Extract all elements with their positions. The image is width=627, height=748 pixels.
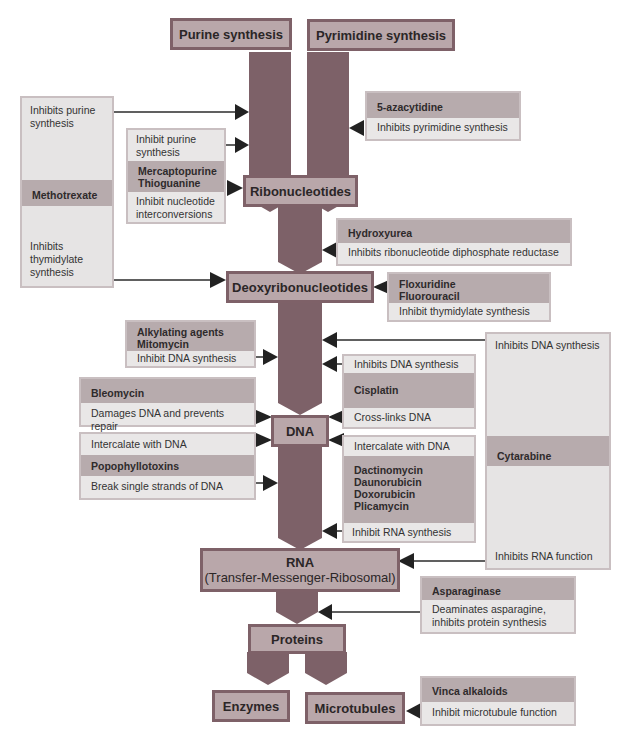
node-deoxyribonucleotides: Deoxyribonucleotides [226, 271, 374, 303]
mercaptopurine-name-1: Mercaptopurine [128, 165, 224, 177]
arrowhead-left [318, 604, 332, 620]
vinca-name: Vinca alkaloids [422, 685, 518, 697]
alkylating-effect: Inhibit DNA synthesis [127, 351, 254, 366]
arrowhead-left [349, 120, 364, 136]
proteins-to-microtubules-arrow [305, 652, 347, 685]
arrowhead-right [210, 272, 226, 288]
panel-methotrexate: Inhibits purine synthesis Methotrexate I… [20, 96, 114, 288]
bleomycin-effect: Damages DNA and prevents repair [81, 403, 254, 425]
dna-to-rna-arrow [278, 445, 322, 550]
cytarabine-effect-rna-function: Inhibits RNA function [487, 466, 609, 568]
arrowhead-left [406, 703, 421, 719]
panel-cytarabine: Inhibits DNA synthesis Cytarabine Inhibi… [485, 332, 611, 570]
bleomycin-name: Bleomycin [81, 387, 154, 399]
panel-asparaginase: Asparaginase Deaminates asparagine, inhi… [420, 576, 576, 634]
node-pyrimidine-synthesis: Pyrimidine synthesis [307, 19, 455, 51]
panel-bleomycin: Bleomycin Damages DNA and prevents repai… [79, 377, 256, 427]
methotrexate-effect-purine: Inhibits purine synthesis [22, 98, 112, 180]
deoxy-to-dna-arrow [278, 300, 322, 415]
node-enzymes: Enzymes [212, 690, 290, 722]
methotrexate-effect-thymidylate: Inhibits thymidylate synthesis [22, 206, 112, 286]
node-dna: DNA [271, 415, 329, 447]
asparaginase-effect: Deaminates asparagine, inhibits protein … [422, 600, 574, 632]
mercaptopurine-effect-purine: Inhibit purine synthesis [128, 130, 224, 161]
asparaginase-name: Asparaginase [422, 585, 511, 597]
node-rna: RNA (Transfer-Messenger-Ribosomal) [200, 548, 400, 592]
alkylating-name-2: Mitomycin [127, 338, 199, 350]
dactinomycin-name-3: Doxorubicin [344, 488, 425, 500]
cisplatin-effect-dna-synthesis: Inhibits DNA synthesis [344, 356, 474, 373]
rna-label: RNA [286, 555, 314, 570]
panel-cisplatin: Inhibits DNA synthesis Cisplatin Cross-l… [342, 354, 476, 429]
arrowhead-right [227, 180, 243, 196]
alkylating-name-1: Alkylating agents [127, 326, 234, 338]
popophyllotoxins-effect-intercalate: Intercalate with DNA [81, 434, 254, 455]
arrowhead-left [322, 332, 337, 348]
arrowhead-right [263, 349, 278, 365]
arrowhead-left [322, 242, 337, 258]
methotrexate-name: Methotrexate [22, 189, 112, 201]
mercaptopurine-name-2: Thioguanine [128, 177, 224, 189]
hydroxyurea-effect: Inhibits ribonucleotide diphosphate redu… [338, 243, 570, 264]
node-purine-synthesis: Purine synthesis [170, 18, 292, 50]
dactinomycin-name-1: Dactinomycin [344, 464, 433, 476]
panel-mercaptopurine: Inhibit purine synthesis Mercaptopurine … [126, 128, 226, 224]
popophyllotoxins-name: Popophyllotoxins [81, 460, 189, 472]
mercaptopurine-effect-interconversions: Inhibit nucleotide interconversions [128, 192, 224, 222]
cytarabine-name: Cytarabine [487, 450, 609, 462]
cisplatin-effect-crosslinks: Cross-links DNA [344, 408, 474, 427]
proteins-to-enzymes-arrow [247, 652, 289, 685]
cytarabine-effect-dna-synthesis: Inhibits DNA synthesis [487, 334, 609, 436]
node-proteins: Proteins [248, 624, 346, 654]
panel-hydroxyurea: Hydroxyurea Inhibits ribonucleotide diph… [336, 218, 572, 266]
floxuridine-name-1: Floxuridine [389, 278, 466, 290]
popophyllotoxins-effect-strands: Break single strands of DNA [81, 476, 254, 498]
arrowhead-left [322, 523, 337, 539]
panel-popophyllotoxins: Intercalate with DNA Popophyllotoxins Br… [79, 432, 256, 500]
azacytidine-effect: Inhibits pyrimidine synthesis [367, 118, 519, 139]
dactinomycin-name-2: Daunorubicin [344, 476, 432, 488]
panel-alkylating-agents: Alkylating agents Mitomycin Inhibit DNA … [125, 320, 256, 368]
dactinomycin-effect-intercalate: Intercalate with DNA [344, 437, 474, 456]
node-ribonucleotides: Ribonucleotides [243, 175, 358, 207]
hydroxyurea-name: Hydroxyurea [338, 227, 422, 239]
panel-dactinomycin: Intercalate with DNA Dactinomycin Daunor… [342, 435, 476, 543]
panel-vinca-alkaloids: Vinca alkaloids Inhibit microtubule func… [420, 676, 576, 726]
arrowhead-left [398, 553, 414, 569]
floxuridine-effect: Inhibit thymidylate synthesis [389, 303, 549, 320]
dactinomycin-name-4: Plicamycin [344, 500, 419, 512]
arrowhead-right [263, 475, 278, 491]
vinca-effect: Inhibit microtubule function [422, 702, 574, 724]
node-microtubules: Microtubules [305, 692, 405, 724]
arrowhead-right [235, 104, 249, 120]
arrowhead-right [256, 410, 272, 424]
dactinomycin-effect-rna-synthesis: Inhibit RNA synthesis [344, 523, 474, 541]
cisplatin-name: Cisplatin [344, 384, 408, 396]
arrowhead-right [256, 433, 272, 447]
azacytidine-name: 5-azacytidine [367, 101, 453, 113]
rna-to-proteins-arrow [276, 590, 318, 624]
rna-sublabel: (Transfer-Messenger-Ribosomal) [205, 570, 396, 585]
arrowhead-left [322, 356, 337, 372]
panel-azacytidine: 5-azacytidine Inhibits pyrimidine synthe… [365, 91, 521, 141]
ribo-to-deoxy-arrow [278, 205, 322, 274]
panel-floxuridine: Floxuridine Fluorouracil Inhibit thymidy… [387, 272, 551, 322]
floxuridine-name-2: Fluorouracil [389, 290, 470, 302]
arrowhead-right [235, 137, 249, 153]
